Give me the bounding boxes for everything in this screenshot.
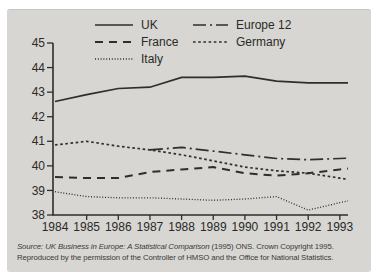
legend-label-italy: Italy [141, 52, 163, 66]
x-tick-label-1990: 1990 [232, 220, 259, 234]
y-tick-label-41: 41 [32, 134, 46, 148]
x-tick-label-1989: 1989 [200, 220, 227, 234]
source-line-2: Reproduced by the permission of the Cont… [17, 252, 369, 263]
x-tick-label-1984: 1984 [42, 220, 69, 234]
source-note: Source: UK Business in Europe: A Statist… [17, 241, 369, 263]
x-tick-label-1987: 1987 [137, 220, 164, 234]
y-tick-label-43: 43 [32, 85, 46, 99]
legend-label-germany: Germany [236, 35, 285, 49]
series-line-uk [55, 76, 348, 101]
x-tick-label-1991: 1991 [263, 220, 290, 234]
x-tick-label-1993: 1993 [326, 220, 353, 234]
legend-label-uk: UK [141, 18, 158, 32]
series-line-italy [55, 192, 348, 210]
legend-label-france: France [141, 35, 179, 49]
line-chart: 4544434241403938198419851986198719881989… [0, 0, 387, 279]
y-tick-label-40: 40 [32, 159, 46, 173]
y-tick-label-39: 39 [32, 184, 46, 198]
axes [53, 43, 348, 215]
series-line-europe-12 [150, 147, 348, 159]
source-publisher: (1995) ONS. Crown Copyright 1995. [209, 242, 333, 251]
x-tick-label-1988: 1988 [168, 220, 195, 234]
source-title: Source: UK Business in Europe: A Statist… [17, 242, 209, 251]
x-tick-label-1986: 1986 [105, 220, 132, 234]
legend-label-europe-12: Europe 12 [236, 18, 292, 32]
y-tick-label-45: 45 [32, 36, 46, 50]
x-tick-label-1985: 1985 [73, 220, 100, 234]
y-tick-label-42: 42 [32, 110, 46, 124]
x-tick-label-1992: 1992 [295, 220, 322, 234]
series-line-germany [55, 141, 348, 179]
page: 4544434241403938198419851986198719881989… [0, 0, 387, 279]
source-line-1: Source: UK Business in Europe: A Statist… [17, 241, 369, 252]
y-tick-label-44: 44 [32, 61, 46, 75]
